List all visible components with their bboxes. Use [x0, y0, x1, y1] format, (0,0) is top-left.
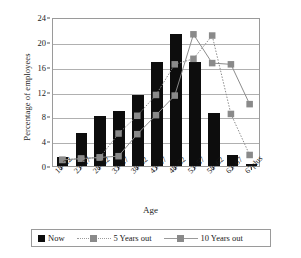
legend-label-now: Now [48, 233, 65, 243]
marker [228, 61, 235, 68]
legend-swatch-10-years-icon [164, 234, 198, 243]
marker [153, 112, 160, 119]
y-axis-tick: 8 [42, 112, 46, 122]
marker [209, 32, 216, 39]
y-axis-tick-mark [47, 92, 50, 93]
y-axis-tick: 4 [42, 137, 46, 147]
y-axis-tick-mark [47, 142, 50, 143]
chart-figure: Percentage of employees 04812162024 18–2… [0, 0, 301, 258]
marker [134, 131, 141, 138]
legend-swatch-now-icon [38, 235, 45, 242]
marker [153, 92, 160, 99]
legend-item-now: Now [38, 233, 65, 243]
marker [190, 56, 197, 63]
y-axis-tick: 24 [38, 13, 47, 23]
marker [228, 111, 235, 118]
line-series-overlay [53, 19, 259, 166]
y-axis-tick: 0 [42, 162, 46, 172]
y-axis-tick-mark [47, 167, 50, 168]
marker [209, 60, 216, 67]
marker [171, 92, 178, 99]
chart-legend: Now 5 Years out 10 Years out [31, 229, 271, 247]
plot-area [52, 18, 260, 167]
marker [246, 101, 253, 108]
legend-item-10-years-out: 10 Years out [164, 233, 243, 243]
y-axis-tick: 16 [38, 63, 47, 73]
y-axis-tick: 20 [38, 38, 47, 48]
y-axis-tick-mark [47, 117, 50, 118]
legend-label-10-years-out: 10 Years out [201, 233, 243, 243]
y-axis-tick-mark [47, 67, 50, 68]
y-axis-tick-labels: 04812162024 [0, 18, 50, 167]
marker [190, 31, 197, 38]
marker [171, 61, 178, 68]
legend-swatch-5-years-icon [77, 234, 111, 243]
y-axis-tick-mark [47, 42, 50, 43]
marker [115, 130, 122, 137]
y-axis-tick: 12 [38, 88, 47, 98]
legend-item-5-years-out: 5 Years out [77, 233, 152, 243]
marker [246, 152, 253, 159]
y-axis-tick-mark [47, 18, 50, 19]
legend-label-5-years-out: 5 Years out [114, 233, 152, 243]
marker [134, 113, 141, 120]
x-axis-title: Age [0, 205, 301, 215]
